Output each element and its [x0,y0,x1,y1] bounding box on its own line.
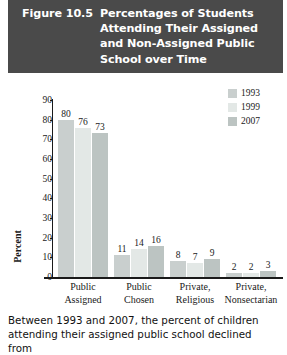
figure-caption: Between 1993 and 2007, the percent of ch… [8,313,278,355]
y-axis-tick-label: 10 [30,252,52,262]
legend-item-2007[interactable]: 2007 [228,114,260,128]
bar-group: 879 [170,100,220,277]
bar[interactable] [204,259,220,277]
bar[interactable] [148,246,164,277]
y-axis-tick-label: 30 [30,213,52,223]
y-axis-tick-label: 50 [30,174,52,184]
y-axis-tick-label: 20 [30,233,52,243]
chart-legend: 199319992007 [228,86,260,128]
bar[interactable] [131,249,147,277]
y-axis-tick-label: 80 [30,115,52,125]
y-axis-tick-label: 70 [30,134,52,144]
legend-label: 1999 [241,102,260,112]
bar[interactable] [187,263,203,277]
y-axis-tick-label: 60 [30,154,52,164]
legend-swatch-icon [228,103,237,112]
bar-value-label: 73 [89,122,111,132]
y-axis-ticks: 9080706050403020100 [26,73,52,310]
bar-group: 807673 [58,100,108,277]
bar-value-label: 16 [145,235,167,245]
figure-header-banner: Figure 10.5 Percentages of Students Atte… [8,0,283,73]
legend-swatch-icon [228,89,237,98]
bar[interactable] [243,273,259,277]
bar[interactable] [58,120,74,277]
x-axis-line [44,277,283,279]
y-axis-tick-label: 90 [30,95,52,105]
bar[interactable] [92,133,108,277]
figure-title: Percentages of Students Attending Their … [100,6,277,67]
bar[interactable] [226,273,242,277]
bar[interactable] [75,128,91,277]
figure-header-inner: Figure 10.5 Percentages of Students Atte… [22,6,277,67]
y-axis-title: Percent [12,217,23,277]
bar-value-label: 3 [257,260,279,270]
bar-value-label: 9 [201,248,223,258]
bar[interactable] [170,261,186,277]
x-axis-category-label: Private, Nonsectarian [215,281,287,306]
legend-item-1993[interactable]: 1993 [228,86,260,100]
figure-number-label: Figure 10.5 [22,6,93,21]
bar[interactable] [114,255,130,277]
bar-chart: Percent 9080706050403020100 807673111416… [0,73,283,310]
bar-group: 111416 [114,100,164,277]
legend-swatch-icon [228,117,237,126]
legend-label: 1993 [241,88,260,98]
bar[interactable] [260,271,276,277]
legend-label: 2007 [241,116,260,126]
y-axis-tick-label: 40 [30,193,52,203]
legend-item-1999[interactable]: 1999 [228,100,260,114]
